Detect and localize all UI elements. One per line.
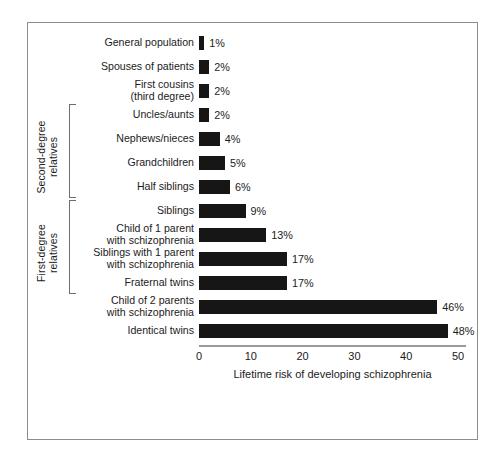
bar-value-label: 2% [214, 85, 230, 97]
bar-row: Half siblings6% [28, 175, 477, 199]
bar [199, 228, 266, 242]
category-label: Grandchildren [44, 157, 194, 169]
x-axis-title: Lifetime risk of developing schizophreni… [199, 368, 466, 380]
category-label: Spouses of patients [44, 61, 194, 73]
group-label: Second-degree relatives [35, 110, 59, 204]
bar-row: Child of 1 parent with schizophrenia13% [28, 223, 477, 247]
category-label: Identical twins [44, 325, 194, 337]
bar-row: Fraternal twins17% [28, 271, 477, 295]
bar-value-label: 4% [225, 133, 241, 145]
figure-frame: General population1%Spouses of patients2… [27, 22, 478, 440]
bar-value-label: 46% [442, 301, 464, 313]
bar-row: Spouses of patients2% [28, 55, 477, 79]
bar [199, 204, 246, 218]
bar [199, 300, 437, 314]
bar [199, 36, 204, 50]
bar [199, 108, 209, 122]
x-tick-label: 50 [452, 350, 464, 362]
bar-row: General population1% [28, 31, 477, 55]
x-tick-label: 0 [196, 350, 202, 362]
category-label: Siblings [44, 205, 194, 217]
bar-row: Siblings9% [28, 199, 477, 223]
x-tick-label: 30 [348, 350, 360, 362]
bar-row: Siblings with 1 parent with schizophreni… [28, 247, 477, 271]
bar [199, 132, 220, 146]
bar-row: Child of 2 parents with schizophrenia46% [28, 295, 477, 319]
bar-row: Uncles/aunts2% [28, 103, 477, 127]
bar-value-label: 6% [235, 181, 251, 193]
bar-value-label: 2% [214, 109, 230, 121]
x-tick-label: 10 [245, 350, 257, 362]
category-label: Half siblings [44, 181, 194, 193]
category-label: Fraternal twins [44, 277, 194, 289]
x-axis-line [199, 345, 466, 347]
category-label: Uncles/aunts [44, 109, 194, 121]
bar [199, 324, 448, 338]
category-label: Siblings with 1 parent with schizophreni… [44, 247, 194, 270]
bar-value-label: 17% [292, 277, 314, 289]
bar-row: First cousins (third degree)2% [28, 79, 477, 103]
bar [199, 180, 230, 194]
bar-value-label: 48% [453, 325, 475, 337]
group-bracket [69, 104, 76, 198]
bar-value-label: 9% [251, 205, 267, 217]
bar [199, 60, 209, 74]
bar-value-label: 2% [214, 61, 230, 73]
group-label: First-degree relatives [35, 206, 59, 300]
category-label: Child of 2 parents with schizophrenia [44, 295, 194, 318]
bar [199, 252, 287, 266]
category-label: Nephews/nieces [44, 133, 194, 145]
category-label: General population [44, 37, 194, 49]
bar-value-label: 13% [271, 229, 293, 241]
bar-row: Identical twins48% [28, 319, 477, 343]
category-label: Child of 1 parent with schizophrenia [44, 223, 194, 246]
bar-value-label: 1% [209, 37, 225, 49]
bar [199, 84, 209, 98]
x-tick-label: 40 [400, 350, 412, 362]
group-bracket [69, 200, 76, 294]
x-tick-label: 20 [296, 350, 308, 362]
bar-value-label: 5% [230, 157, 246, 169]
bar-row: Grandchildren5% [28, 151, 477, 175]
bar-value-label: 17% [292, 253, 314, 265]
category-label: First cousins (third degree) [44, 79, 194, 102]
bar [199, 156, 225, 170]
bar-row: Nephews/nieces4% [28, 127, 477, 151]
bar [199, 276, 287, 290]
